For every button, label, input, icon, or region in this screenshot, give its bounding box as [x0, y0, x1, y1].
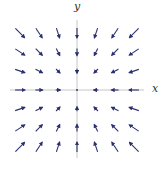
vector-arrow: [112, 142, 118, 151]
vector-arrow: [94, 69, 98, 73]
vector-arrow: [36, 142, 42, 151]
vector-arrow: [36, 125, 43, 132]
vector-arrow: [129, 125, 138, 131]
vector-arrow: [129, 69, 139, 72]
vector-arrow: [36, 28, 42, 37]
vector-arrow: [94, 49, 97, 56]
vector-arrow: [112, 28, 118, 37]
vector-arrow: [56, 28, 59, 38]
vector-arrow: [94, 142, 97, 152]
vector-arrow: [112, 125, 119, 132]
vector-arrow: [36, 69, 43, 72]
vector-arrow: [94, 28, 97, 38]
vector-field-plot: [0, 0, 167, 169]
vector-arrow: [56, 49, 59, 56]
vector-arrow: [56, 69, 60, 73]
vector-arrow: [94, 107, 98, 111]
vector-arrow: [15, 49, 24, 55]
vector-arrow: [15, 142, 24, 151]
vector-arrow: [15, 125, 24, 131]
vector-arrow: [15, 107, 25, 110]
vector-arrow: [129, 107, 139, 110]
vector-arrow: [129, 28, 138, 37]
vector-arrow: [56, 142, 59, 152]
y-axis-label: y: [74, 0, 80, 13]
x-axis-label: x: [152, 82, 158, 95]
vector-arrow: [76, 89, 78, 91]
vector-arrow: [112, 107, 119, 110]
vector-arrow: [56, 107, 60, 111]
vector-arrow: [36, 49, 43, 56]
vector-arrow: [56, 125, 59, 132]
vector-arrow: [15, 69, 25, 72]
vector-arrow: [112, 69, 119, 72]
vector-arrow: [94, 125, 97, 132]
vector-arrow: [129, 49, 138, 55]
vector-arrow: [112, 49, 119, 56]
vector-arrow: [129, 142, 138, 151]
vector-arrow: [36, 107, 43, 110]
vector-arrow: [15, 28, 24, 37]
